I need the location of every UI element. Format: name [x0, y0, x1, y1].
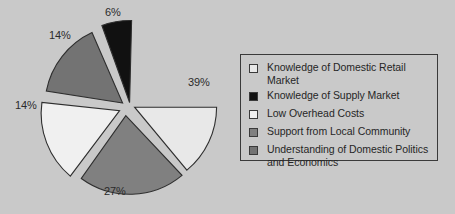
- pie-label-domestic-politics: 14%: [49, 29, 71, 41]
- legend-label-domestic-politics: Understanding of Domestic Politics and E…: [267, 143, 432, 169]
- legend-swatch-icon-domestic-politics: [249, 146, 258, 155]
- chart-legend: Knowledge of Domestic Retail Market Know…: [240, 54, 438, 161]
- chart-canvas: 39% 6% 14% 27% 14% Knowledge of Domestic…: [0, 0, 455, 214]
- pie-label-overhead-costs: 14%: [15, 99, 37, 111]
- legend-swatch-icon-local-community: [249, 128, 258, 137]
- legend-swatch-icon-overhead-costs: [249, 110, 258, 119]
- pie-label-retail-market: 39%: [188, 76, 210, 88]
- legend-label-retail-market: Knowledge of Domestic Retail Market: [267, 61, 432, 87]
- legend-item-domestic-politics[interactable]: Understanding of Domestic Politics and E…: [249, 143, 432, 169]
- legend-item-local-community[interactable]: Support from Local Community: [249, 125, 432, 141]
- legend-item-supply-market[interactable]: Knowledge of Supply Market: [249, 89, 432, 105]
- legend-item-overhead-costs[interactable]: Low Overhead Costs: [249, 107, 432, 123]
- pie-chart: 39% 6% 14% 27% 14%: [0, 0, 236, 214]
- legend-swatch-icon-supply-market: [249, 92, 258, 101]
- pie-label-supply-market: 6%: [105, 6, 121, 18]
- pie-label-local-community: 27%: [104, 185, 126, 197]
- legend-label-overhead-costs: Low Overhead Costs: [267, 107, 364, 120]
- legend-item-retail-market[interactable]: Knowledge of Domestic Retail Market: [249, 61, 432, 87]
- legend-list: Knowledge of Domestic Retail Market Know…: [249, 61, 432, 171]
- legend-label-local-community: Support from Local Community: [267, 125, 410, 138]
- legend-label-supply-market: Knowledge of Supply Market: [267, 89, 399, 102]
- legend-swatch-icon-retail-market: [249, 64, 258, 73]
